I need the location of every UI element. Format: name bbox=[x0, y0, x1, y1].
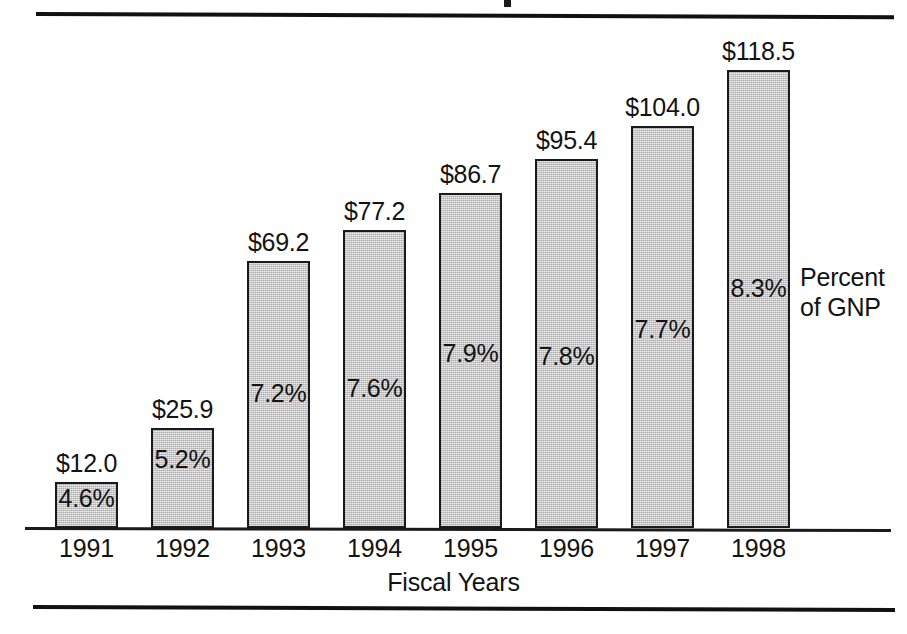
percent-label-1996: 7.8% bbox=[507, 344, 627, 369]
value-label-1996: $95.4 bbox=[497, 128, 637, 153]
value-label-1995: $86.7 bbox=[401, 162, 541, 187]
series-legend-line-2: of GNP bbox=[800, 292, 885, 322]
value-label-1997: $104.0 bbox=[593, 95, 733, 120]
percent-label-1994: 7.6% bbox=[315, 376, 435, 401]
x-axis-title: Fiscal Years bbox=[0, 568, 907, 596]
bar-1992 bbox=[151, 428, 214, 528]
plot-area: $12.04.6%1991$25.95.2%1992$69.27.2%1993$… bbox=[0, 0, 907, 634]
x-tick-label-1998: 1998 bbox=[699, 534, 819, 562]
value-label-1994: $77.2 bbox=[305, 199, 445, 224]
chart-figure: $12.04.6%1991$25.95.2%1992$69.27.2%1993$… bbox=[0, 0, 907, 634]
value-label-1993: $69.2 bbox=[209, 230, 349, 255]
percent-label-1997: 7.7% bbox=[603, 317, 723, 342]
value-label-1998: $118.5 bbox=[689, 39, 829, 64]
percent-label-1992: 5.2% bbox=[123, 447, 243, 472]
percent-label-1991: 4.6% bbox=[27, 486, 147, 511]
series-legend-line-1: Percent bbox=[800, 262, 885, 292]
series-legend-note: Percent of GNP bbox=[800, 262, 885, 322]
